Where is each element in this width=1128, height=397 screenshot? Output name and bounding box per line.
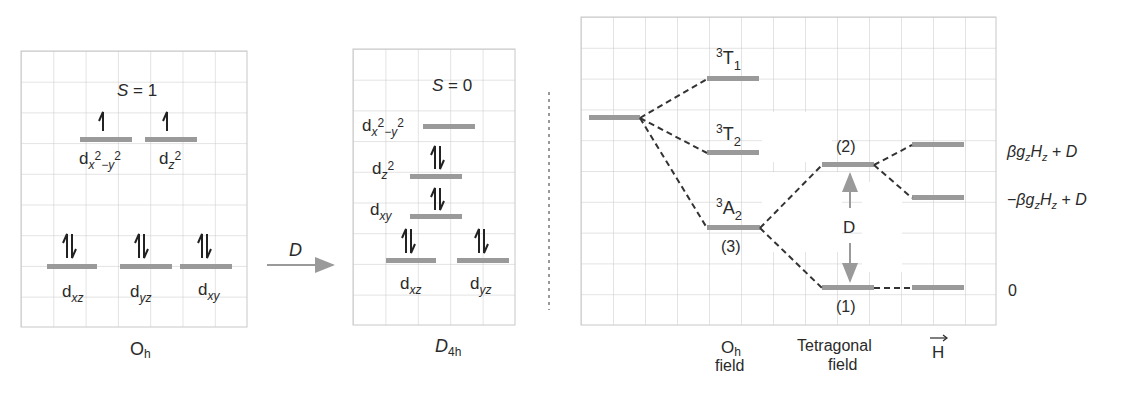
d4h-spin-label: S = 0	[432, 76, 472, 95]
oh-group-label: Oh	[130, 339, 151, 361]
d4h-group-label: D4h	[435, 336, 461, 359]
level-dx2y2-d4h	[423, 124, 475, 129]
level-3A2	[707, 225, 760, 230]
d4h-panel: S = 0 dx2−y2 dz2 dxy dxz dyz D4h	[353, 49, 515, 359]
level-dyz-d4h	[457, 258, 509, 263]
level-zeeman-minus	[912, 195, 964, 200]
level-dyz-oh	[120, 264, 172, 269]
level-dx2y2-oh	[80, 137, 132, 142]
level-dz2-oh	[145, 137, 197, 142]
oh-spin-label: S = 1	[117, 81, 157, 100]
zfs-label: D	[843, 218, 855, 237]
degeneracy-1: (1)	[836, 298, 856, 315]
term-grid	[581, 17, 996, 325]
tetragonal-label: Tetragonal	[797, 337, 872, 354]
level-dz2-d4h	[410, 174, 462, 179]
level-tet-1	[822, 285, 874, 290]
degeneracy-3: (3)	[721, 238, 741, 255]
level-dxz-d4h	[386, 258, 436, 263]
level-dxz-oh	[47, 264, 97, 269]
distortion-label: D	[289, 240, 302, 260]
free-ion-level	[589, 115, 640, 120]
energy-zero-label: 0	[1008, 282, 1017, 299]
level-tet-2	[822, 162, 874, 167]
term-panel: 3T1 3T2 3A2 (3) (2) (1) D βgzHz + D −βgz…	[581, 17, 1087, 374]
level-3T2	[707, 150, 759, 155]
svg-text:H: H	[932, 343, 944, 362]
degeneracy-2: (2)	[836, 138, 856, 155]
energy-minus-label: −βgzHz + D	[1007, 191, 1087, 211]
oh-panel: S = 1 dx2−y2 dz2 dxz dyz dxy Oh	[21, 51, 247, 361]
oh-field-line2: field	[715, 357, 744, 374]
distortion-arrow: D	[267, 240, 333, 265]
energy-plus-label: βgzHz + D	[1006, 143, 1078, 163]
field-vector-label: H	[930, 335, 947, 362]
oh-field-label: Oh	[721, 338, 741, 359]
level-dxy-oh	[180, 264, 232, 269]
level-zeeman-plus	[912, 142, 964, 147]
level-dxy-d4h	[410, 214, 462, 219]
level-3T1	[707, 76, 759, 81]
tetragonal-line2: field	[828, 356, 857, 373]
ligand-field-diagram: S = 1 dx2−y2 dz2 dxz dyz dxy Oh D S = 0 …	[0, 0, 1128, 397]
level-zeeman-zero	[912, 285, 964, 290]
